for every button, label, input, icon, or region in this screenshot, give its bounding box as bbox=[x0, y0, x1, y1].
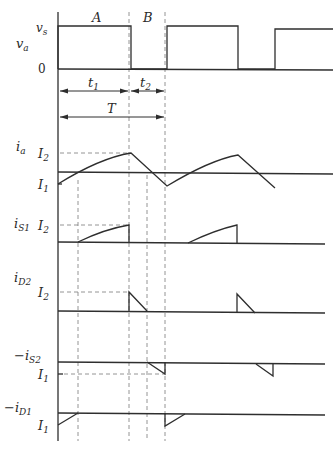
interval-label-B: B bbox=[142, 10, 153, 25]
ia-baseline bbox=[58, 172, 333, 174]
arrowhead-right-icon bbox=[120, 89, 128, 94]
iD2-baseline bbox=[58, 311, 325, 313]
arrowhead-right-icon bbox=[156, 115, 164, 120]
level-label-I1: I1 bbox=[37, 418, 49, 435]
iD2-pulse-1 bbox=[129, 292, 147, 311]
interval-arrows: t1 t2 T bbox=[60, 75, 164, 120]
level-label-zero: 0 bbox=[38, 62, 46, 76]
level-label-I1: I1 bbox=[37, 367, 49, 384]
level-label-I2: I2 bbox=[37, 285, 49, 302]
trace-label-iS2: −iS2 bbox=[14, 348, 41, 365]
interval-label-A: A bbox=[91, 10, 101, 25]
trace-ia: ia I2 I1 bbox=[16, 139, 333, 194]
iS1-pulse-1 bbox=[78, 225, 129, 242]
iD1-baseline bbox=[58, 413, 325, 415]
trace-label-iD1: −iD1 bbox=[4, 400, 32, 417]
iS1-pulse-2 bbox=[188, 225, 237, 243]
arrowhead-left-icon bbox=[131, 89, 139, 94]
arrowhead-left-icon bbox=[60, 115, 68, 120]
label-t1: t1 bbox=[88, 75, 99, 92]
trace-iS1: iS1 I2 bbox=[14, 216, 325, 244]
trace-iS2: −iS2 I1 bbox=[14, 348, 325, 384]
level-label-vs: vs bbox=[36, 21, 48, 37]
va-baseline bbox=[58, 69, 333, 70]
iS2-baseline bbox=[58, 362, 325, 364]
level-label-I1: I1 bbox=[37, 177, 49, 194]
trace-va: va vs 0 bbox=[16, 21, 333, 76]
ia-waveform bbox=[58, 153, 275, 188]
va-waveform bbox=[58, 26, 333, 69]
iD1-pulse-1 bbox=[58, 413, 78, 425]
level-label-I2: I2 bbox=[37, 146, 49, 163]
iD2-pulse-2 bbox=[237, 294, 255, 313]
trace-label-va: va bbox=[16, 36, 29, 53]
waveform-diagram: A B va vs 0 t1 t2 T ia I2 I1 i bbox=[0, 0, 335, 454]
trace-iD2: iD2 I2 bbox=[14, 270, 325, 313]
label-T: T bbox=[107, 101, 117, 116]
label-t2: t2 bbox=[140, 75, 151, 92]
trace-label-ia: ia bbox=[16, 139, 26, 156]
level-label-I2: I2 bbox=[37, 218, 49, 235]
arrowhead-left-icon bbox=[60, 89, 68, 94]
iD1-pulse-2 bbox=[165, 413, 185, 426]
iS2-pulse-2 bbox=[256, 364, 273, 376]
iS2-pulse-1 bbox=[147, 362, 165, 374]
arrowhead-right-icon bbox=[156, 89, 164, 94]
iS1-baseline bbox=[58, 242, 325, 244]
trace-label-iS1: iS1 bbox=[14, 216, 30, 233]
trace-label-iD2: iD2 bbox=[14, 270, 31, 287]
trace-iD1: −iD1 I1 bbox=[4, 400, 325, 435]
